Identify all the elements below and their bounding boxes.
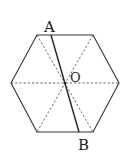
hexagon-diagram: A O B — [0, 0, 128, 164]
center-point — [64, 82, 67, 85]
label-b: B — [78, 136, 89, 154]
label-o: O — [70, 70, 81, 85]
label-a: A — [43, 18, 55, 36]
